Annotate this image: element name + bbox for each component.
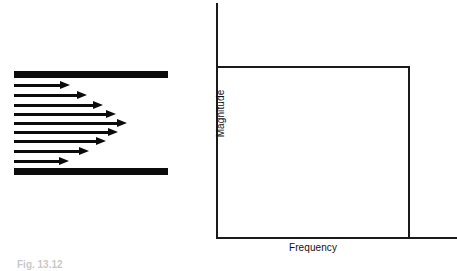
velocity-arrow-shaft bbox=[14, 113, 107, 116]
velocity-arrow-shaft bbox=[14, 150, 80, 153]
magnitude-frequency-chart: Magnitude Frequency bbox=[196, 0, 457, 271]
velocity-arrow-shaft bbox=[14, 160, 60, 163]
velocity-arrow-head-icon bbox=[96, 137, 106, 145]
velocity-arrow-shaft bbox=[14, 84, 61, 87]
y-axis-label: Magnitude bbox=[215, 74, 226, 154]
velocity-arrow-head-icon bbox=[106, 110, 116, 118]
velocity-arrow bbox=[14, 84, 61, 87]
velocity-arrow-shaft bbox=[14, 104, 94, 107]
x-axis-label: Frequency bbox=[216, 242, 410, 253]
velocity-arrow-head-icon bbox=[117, 119, 127, 127]
velocity-arrow bbox=[14, 160, 60, 163]
velocity-arrow bbox=[14, 140, 97, 143]
velocity-arrow bbox=[14, 94, 78, 97]
pipe-wall-top-bar bbox=[14, 71, 168, 78]
velocity-arrow-head-icon bbox=[93, 101, 103, 109]
velocity-arrow-shaft bbox=[14, 122, 118, 125]
velocity-arrow-head-icon bbox=[59, 157, 69, 165]
velocity-arrow bbox=[14, 131, 109, 134]
velocity-arrow-shaft bbox=[14, 140, 97, 143]
figure-caption: Fig. 13.12 bbox=[17, 259, 63, 270]
figure-root: Magnitude Frequency Fig. 13.12 bbox=[0, 0, 457, 271]
velocity-arrow-shaft bbox=[14, 131, 109, 134]
velocity-arrow-head-icon bbox=[60, 81, 70, 89]
pipe-wall-bottom-bar bbox=[14, 168, 168, 175]
velocity-arrow bbox=[14, 122, 118, 125]
velocity-arrow-head-icon bbox=[79, 147, 89, 155]
velocity-arrow-shaft bbox=[14, 94, 78, 97]
velocity-arrow bbox=[14, 104, 94, 107]
pipe-flow-diagram bbox=[0, 0, 200, 248]
velocity-arrow bbox=[14, 113, 107, 116]
filter-response-curve bbox=[216, 66, 410, 239]
velocity-arrow-head-icon bbox=[108, 128, 118, 136]
velocity-arrow-head-icon bbox=[77, 91, 87, 99]
velocity-arrow bbox=[14, 150, 80, 153]
